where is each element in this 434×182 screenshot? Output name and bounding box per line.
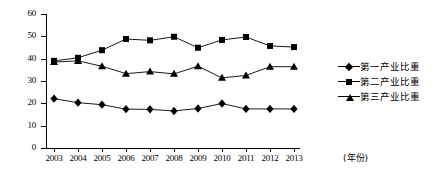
- legend-marker-diamond-icon: [338, 61, 360, 73]
- legend-label-2: 第三产业比重: [360, 91, 420, 103]
- data-point: [219, 37, 225, 43]
- data-point: [147, 37, 153, 43]
- series-2: [50, 57, 298, 81]
- data-point: [243, 34, 249, 40]
- series-0: [50, 94, 297, 115]
- data-point: [146, 105, 153, 113]
- data-point: [242, 105, 249, 113]
- data-point: [267, 43, 273, 49]
- legend-marker-triangle-icon: [338, 91, 360, 103]
- chart-legend: 第一产业比重 第二产业比重 第三产业比重: [338, 59, 434, 104]
- data-point: [98, 100, 105, 108]
- legend-item-0[interactable]: 第一产业比重: [338, 59, 434, 74]
- data-point: [291, 44, 297, 50]
- series-1: [51, 34, 297, 64]
- data-point: [50, 94, 57, 102]
- data-point: [266, 63, 274, 70]
- legend-marker-square-icon: [338, 76, 360, 88]
- legend-item-1[interactable]: 第二产业比重: [338, 74, 434, 89]
- chart-figure: 0102030405060 20032004200520062007200820…: [0, 0, 434, 182]
- data-point: [290, 105, 297, 113]
- series-line: [54, 37, 294, 61]
- data-point: [218, 99, 225, 107]
- data-point: [171, 34, 177, 40]
- data-point: [290, 63, 298, 70]
- data-point: [194, 104, 201, 112]
- data-point: [146, 68, 154, 75]
- data-point: [122, 105, 129, 113]
- data-point: [123, 36, 129, 42]
- data-point: [74, 98, 81, 106]
- legend-item-2[interactable]: 第三产业比重: [338, 89, 434, 104]
- legend-label-1: 第二产业比重: [360, 76, 420, 88]
- legend-label-0: 第一产业比重: [360, 61, 420, 73]
- data-point: [242, 71, 250, 78]
- x-axis-title: (年份): [343, 153, 368, 163]
- data-point: [195, 45, 201, 51]
- data-point: [266, 105, 273, 113]
- data-point: [99, 47, 105, 53]
- data-point: [194, 62, 202, 69]
- data-point: [170, 107, 177, 115]
